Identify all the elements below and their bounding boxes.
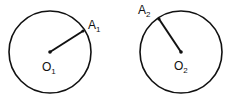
- label-a2: A2: [138, 3, 151, 19]
- radius-o1-a1: [50, 31, 83, 52]
- center-point-o2: [179, 50, 183, 54]
- two-circles-diagram: A1 O1 A2 O2: [0, 0, 233, 103]
- label-o2: O2: [174, 59, 188, 75]
- radius-o2-a2: [159, 19, 181, 52]
- point-a2: [157, 17, 160, 20]
- center-point-o1: [48, 50, 52, 54]
- label-a1: A1: [88, 18, 101, 34]
- circle-1-group: A1 O1: [9, 11, 101, 93]
- point-a1: [81, 29, 84, 32]
- circle-2-group: A2 O2: [138, 3, 222, 93]
- label-o1: O1: [42, 60, 56, 76]
